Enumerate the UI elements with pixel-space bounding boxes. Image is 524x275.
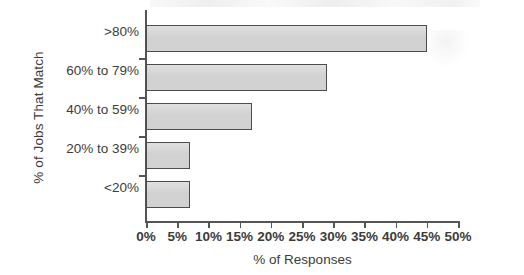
scan-artifact-top: [150, 0, 480, 7]
x-tick-label-50: 50%: [436, 229, 480, 244]
y-tick-label-40-59: 40% to 59%: [0, 102, 139, 117]
bar-lt20: [146, 181, 190, 208]
y-axis-tick-labels: <20% 20% to 39% 40% to 59% 60% to 79% >8…: [0, 10, 139, 221]
y-tick-label-20-39: 20% to 39%: [0, 141, 139, 156]
y-tick-label-gt80: >80%: [0, 24, 139, 39]
bar-60-79: [146, 64, 327, 91]
bar-gt80: [146, 25, 427, 52]
plot-area: [146, 10, 458, 221]
y-tick-label-60-79: 60% to 79%: [0, 63, 139, 78]
x-tick-mark-40: [396, 221, 398, 228]
bar-20-39: [146, 142, 190, 169]
x-tick-mark-30: [333, 221, 335, 228]
x-tick-mark-25: [302, 221, 304, 228]
y-tick-label-lt20: <20%: [0, 180, 139, 195]
x-tick-mark-35: [364, 221, 366, 228]
x-tick-mark-50: [458, 221, 460, 228]
bar-40-59: [146, 103, 252, 130]
x-tick-mark-15: [240, 221, 242, 228]
x-tick-mark-20: [271, 221, 273, 228]
x-tick-mark-0: [146, 221, 148, 228]
x-tick-mark-5: [177, 221, 179, 228]
x-tick-mark-45: [427, 221, 429, 228]
x-tick-mark-10: [208, 221, 210, 228]
x-axis-title: % of Responses: [146, 252, 459, 267]
bar-chart: % of Jobs That Match <20% 20% to 39% 40%…: [0, 0, 524, 275]
